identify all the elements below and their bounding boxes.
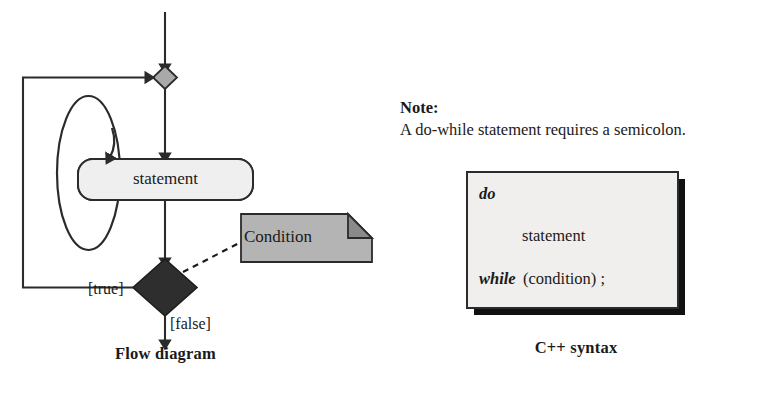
guard-false-label: [false] (170, 316, 211, 332)
condition-anchor-line (183, 239, 247, 272)
note-heading: Note: (400, 100, 438, 117)
loop-arrow-tail (110, 128, 114, 157)
syntax-line-while-condition: (condition) ; (523, 271, 605, 288)
statement-node-label: statement (0, 170, 331, 187)
merge-diamond (153, 66, 177, 89)
note-body-text: A do-while statement requires a semicolo… (400, 122, 686, 139)
flow-diagram-caption: Flow diagram (0, 346, 331, 363)
condition-note-fold (348, 214, 372, 238)
syntax-line-do: do (479, 186, 496, 203)
syntax-line-while-keyword: while (479, 271, 516, 288)
condition-note-label: Condition (244, 228, 312, 245)
decision-diamond (133, 259, 197, 316)
guard-true-label: [true] (88, 281, 124, 297)
cpp-syntax-caption: C++ syntax (467, 340, 685, 357)
diagram-canvas (0, 0, 781, 395)
syntax-line-statement: statement (522, 228, 585, 245)
